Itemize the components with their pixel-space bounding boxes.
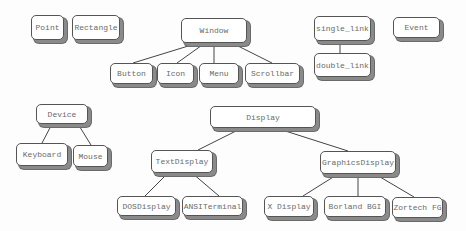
edge-display-text bbox=[198, 128, 242, 150]
edge-window-icon bbox=[177, 43, 205, 63]
edge-text-dos bbox=[145, 173, 168, 196]
node-icon[interactable]: Icon bbox=[157, 63, 194, 84]
node-zortech-fg[interactable]: Zortech FG bbox=[392, 197, 443, 218]
node-single-link[interactable]: single_link bbox=[314, 16, 371, 41]
edge-device-keyboard bbox=[42, 124, 52, 143]
edge-window-scrollbar bbox=[232, 43, 272, 63]
node-device[interactable]: Device bbox=[36, 104, 88, 124]
node-dos-display[interactable]: DOSDisplay bbox=[117, 196, 176, 216]
node-double-link[interactable]: double_link bbox=[314, 53, 371, 77]
edge-display-graphics bbox=[276, 128, 348, 151]
node-text-display[interactable]: TextDisplay bbox=[151, 150, 213, 173]
node-button[interactable]: Button bbox=[110, 63, 153, 84]
node-display[interactable]: Display bbox=[210, 106, 316, 128]
node-keyboard[interactable]: Keyboard bbox=[16, 143, 68, 166]
edge-text-ansi bbox=[192, 173, 219, 196]
node-graphics-display[interactable]: GraphicsDisplay bbox=[320, 151, 396, 174]
edge-graphics-x bbox=[303, 174, 338, 196]
node-point[interactable]: Point bbox=[31, 15, 64, 40]
node-scrollbar[interactable]: Scrollbar bbox=[245, 63, 300, 84]
node-x-display[interactable]: X Display bbox=[264, 196, 314, 217]
node-mouse[interactable]: Mouse bbox=[73, 145, 108, 167]
node-rectangle[interactable]: Rectangle bbox=[72, 15, 120, 40]
edge-graphics-zortech bbox=[375, 174, 414, 197]
node-event[interactable]: Event bbox=[393, 17, 440, 38]
node-ansi-terminal[interactable]: ANSITerminal bbox=[182, 196, 243, 216]
node-menu[interactable]: Menu bbox=[199, 63, 239, 84]
node-borland-bgi[interactable]: Borland BGI bbox=[324, 196, 386, 217]
edge-window-button bbox=[133, 43, 198, 63]
node-window[interactable]: Window bbox=[181, 18, 247, 43]
edge-device-mouse bbox=[78, 124, 91, 145]
